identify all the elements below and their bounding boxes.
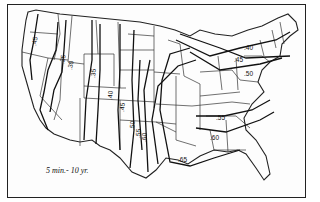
map-caption: 5 min.- 10 yr.	[46, 166, 88, 175]
isoline-label: .40	[244, 44, 253, 51]
isoline-label: .45	[234, 56, 243, 63]
isoline-label: .60	[210, 134, 219, 141]
isoline-label: .25	[58, 54, 67, 64]
isolines	[30, 14, 290, 172]
isoline-label: .55	[216, 114, 225, 121]
isoline-label: .65	[178, 156, 187, 163]
isoline-label: .50	[244, 70, 253, 77]
isoline-label: .60	[140, 132, 148, 142]
isoline-label: .30	[66, 60, 75, 70]
isoline-label: .40	[106, 90, 114, 100]
isoline-label: .45	[118, 102, 126, 112]
isoline-label: .45	[30, 36, 39, 46]
isoline-label: .35	[89, 68, 97, 78]
us-outline	[22, 10, 298, 180]
